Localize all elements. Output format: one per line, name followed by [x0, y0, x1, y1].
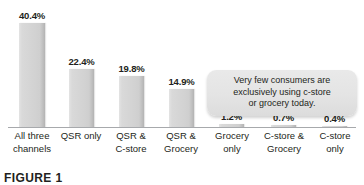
- x-label-line-1: C-store &: [264, 130, 304, 141]
- x-axis-line: [8, 127, 356, 128]
- chart-plot-area: 40.4% 22.4% 19.8% 14.9% 1.2% 0.7%: [0, 0, 364, 128]
- x-axis-labels: All three channels QSR only QSR & C-stor…: [0, 130, 364, 170]
- x-axis-label-qsr-only: QSR only: [57, 130, 105, 143]
- callout-annotation: Very few consumers are exclusively using…: [207, 70, 357, 116]
- x-label-line-2: only: [311, 143, 359, 156]
- x-label-line-2: channels: [8, 143, 56, 156]
- x-axis-label-grocery-only: Grocery only: [207, 130, 257, 155]
- figure-caption: FIGURE 1: [4, 171, 63, 185]
- bar-column-c-store-only[interactable]: 0.4%: [322, 114, 347, 127]
- x-label-line-1: C-store: [319, 130, 350, 141]
- bar-column-qsr-and-c-store[interactable]: 19.8%: [119, 64, 144, 127]
- x-label-line-2: Grocery: [258, 143, 310, 156]
- figure-container: 40.4% 22.4% 19.8% 14.9% 1.2% 0.7%: [0, 0, 364, 185]
- callout-line-3: or grocery today.: [213, 98, 351, 110]
- bar-rect[interactable]: [19, 23, 45, 127]
- bar-rect[interactable]: [169, 89, 194, 127]
- x-label-line-1: QSR &: [166, 130, 196, 141]
- bar-rect[interactable]: [119, 76, 144, 127]
- bar-column-qsr-and-grocery[interactable]: 14.9%: [169, 77, 194, 127]
- x-label-line-1: All three: [15, 130, 50, 141]
- x-label-line-1: Grocery: [215, 130, 249, 141]
- x-axis-label-c-store-only: C-store only: [311, 130, 359, 155]
- x-axis-label-qsr-and-grocery: QSR & Grocery: [157, 130, 205, 155]
- x-axis-label-all-three-channels: All three channels: [8, 130, 56, 155]
- x-axis-label-c-store-and-grocery: C-store & Grocery: [258, 130, 310, 155]
- bar-value-label: 14.9%: [169, 77, 195, 87]
- x-label-line-2: C-store: [107, 143, 155, 156]
- bar-column-qsr-only[interactable]: 22.4%: [69, 57, 94, 127]
- x-label-line-1: QSR &: [116, 130, 146, 141]
- callout-line-1: Very few consumers are: [213, 75, 351, 87]
- x-label-line-2: Grocery: [157, 143, 205, 156]
- x-label-line-1: QSR only: [61, 130, 102, 141]
- callout-line-2: exclusively using c-store: [213, 87, 351, 99]
- bar-column-all-three-channels[interactable]: 40.4%: [19, 11, 45, 127]
- x-label-line-2: only: [207, 143, 257, 156]
- x-axis-label-qsr-and-c-store: QSR & C-store: [107, 130, 155, 155]
- bar-value-label: 40.4%: [19, 11, 45, 21]
- bar-value-label: 19.8%: [119, 64, 145, 74]
- bar-rect[interactable]: [69, 69, 94, 127]
- bar-value-label: 22.4%: [69, 57, 95, 67]
